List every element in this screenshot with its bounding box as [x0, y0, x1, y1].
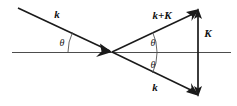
- theta-incident-label: θ: [60, 37, 65, 48]
- vector-diagram-canvas: k k+K K k θ θ θ: [0, 0, 237, 106]
- vector-diagram-figure: k k+K K k θ θ θ: [0, 0, 237, 106]
- K-vector-label: K: [203, 27, 212, 39]
- k-plus-K-label: k+K: [152, 9, 172, 21]
- k-scattered-label: k: [152, 81, 158, 93]
- k-incident-label: k: [54, 8, 60, 20]
- theta-upper-label: θ: [151, 37, 156, 48]
- theta-lower-label: θ: [151, 59, 156, 70]
- theta-incident-arc: [68, 33, 73, 53]
